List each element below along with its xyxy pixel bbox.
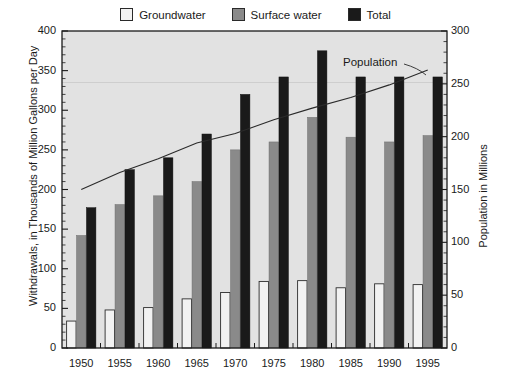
bar-surface-water-1970 [231, 150, 240, 348]
bar-surface-water-1985 [346, 137, 355, 348]
y-axis-right-tick-label-250: 250 [451, 77, 485, 89]
y-axis-right-tick-label-300: 300 [451, 24, 485, 36]
chart-figure: Groundwater Surface water Total Withdraw… [0, 0, 511, 382]
bar-surface-water-1990 [385, 142, 394, 348]
bar-total-1995 [433, 77, 442, 348]
bar-total-1980 [317, 51, 326, 348]
y-axis-left-tick-label-100: 100 [18, 262, 56, 274]
bar-groundwater-1975 [259, 281, 268, 348]
bar-surface-water-1950 [77, 235, 86, 348]
y-axis-left-tick-label-0: 0 [18, 341, 56, 353]
bar-surface-water-1960 [154, 196, 163, 348]
y-axis-right-tick-label-100: 100 [451, 235, 485, 247]
y-axis-right-tick-label-0: 0 [451, 341, 485, 353]
y-axis-left-tick-label-400: 400 [18, 24, 56, 36]
bar-surface-water-1965 [192, 182, 201, 348]
bar-total-1970 [240, 94, 249, 348]
x-axis-tick-label-1960: 1960 [136, 357, 180, 369]
y-axis-left-tick-label-250: 250 [18, 143, 56, 155]
x-axis-tick-label-1955: 1955 [98, 357, 142, 369]
bar-total-1990 [394, 77, 403, 348]
bar-groundwater-1960 [144, 308, 153, 348]
bar-total-1950 [86, 208, 95, 348]
bar-total-1985 [356, 77, 365, 348]
bar-groundwater-1980 [298, 281, 307, 348]
x-axis-tick-label-1990: 1990 [367, 357, 411, 369]
y-axis-left-tick-label-300: 300 [18, 103, 56, 115]
bar-surface-water-1975 [269, 142, 278, 348]
bar-groundwater-1955 [105, 310, 114, 348]
bar-groundwater-1990 [375, 284, 384, 348]
bar-surface-water-1980 [308, 117, 317, 348]
x-axis-tick-label-1965: 1965 [175, 357, 219, 369]
y-axis-left-tick-label-200: 200 [18, 183, 56, 195]
y-axis-left-tick-label-350: 350 [18, 64, 56, 76]
x-axis-tick-label-1970: 1970 [213, 357, 257, 369]
bar-groundwater-1950 [67, 321, 76, 348]
x-axis-tick-label-1980: 1980 [290, 357, 334, 369]
y-axis-right-tick-label-200: 200 [451, 130, 485, 142]
x-axis-tick-label-1995: 1995 [406, 357, 450, 369]
bar-groundwater-1985 [336, 288, 345, 348]
x-axis-tick-label-1985: 1985 [329, 357, 373, 369]
y-axis-right-tick-label-50: 50 [451, 288, 485, 300]
bar-surface-water-1995 [423, 136, 432, 348]
y-axis-left-tick-label-50: 50 [18, 301, 56, 313]
bar-groundwater-1995 [413, 285, 422, 348]
x-axis-tick-label-1975: 1975 [252, 357, 296, 369]
bar-groundwater-1970 [221, 293, 230, 348]
bar-total-1955 [125, 170, 134, 348]
y-axis-right-tick-label-150: 150 [451, 183, 485, 195]
y-axis-left-tick-label-150: 150 [18, 222, 56, 234]
bar-surface-water-1955 [115, 205, 124, 348]
x-axis-tick-label-1950: 1950 [59, 357, 103, 369]
bar-total-1960 [163, 158, 172, 348]
chart-plot-area [0, 0, 511, 382]
population-annotation-label: Population [343, 56, 397, 68]
bar-total-1965 [202, 134, 211, 348]
bar-groundwater-1965 [182, 299, 191, 348]
